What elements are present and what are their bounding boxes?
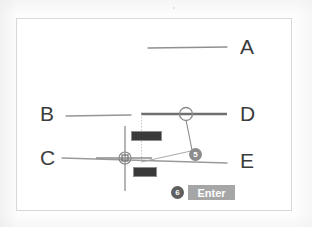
label-e: E xyxy=(240,150,254,171)
line-b xyxy=(66,115,131,116)
scanned-page-background: A B C D E 5 6 Enter xyxy=(0,0,312,227)
line-c-e xyxy=(62,158,227,163)
enter-key-button[interactable]: Enter xyxy=(188,185,235,200)
leader-line-diagonal xyxy=(141,151,191,162)
line-a xyxy=(148,47,227,48)
leader-line-from-circle xyxy=(186,120,192,150)
scan-speck xyxy=(173,7,175,9)
label-c: C xyxy=(40,147,55,168)
dynamic-input-coordinate[interactable] xyxy=(131,131,162,141)
label-b: B xyxy=(40,103,54,124)
step-marker-6: 6 xyxy=(171,186,184,199)
label-a: A xyxy=(240,36,254,57)
label-d: D xyxy=(240,103,255,124)
step-marker-5: 5 xyxy=(189,148,202,161)
dynamic-input-command[interactable] xyxy=(133,167,157,177)
